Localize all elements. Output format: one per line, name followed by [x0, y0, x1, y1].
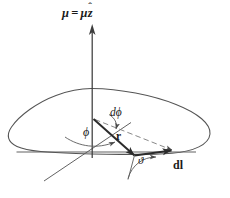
mu-axis-label: μ=μˆz	[62, 7, 93, 20]
loop-curve	[8, 88, 210, 154]
mu-vector-symbol: μ	[62, 6, 69, 20]
mu-scalar-symbol: μ	[80, 6, 87, 20]
equals-sign: =	[71, 6, 78, 20]
diagram-canvas	[0, 0, 230, 198]
phi-label: ϕ	[83, 126, 89, 138]
z-hat-symbol: ˆz	[88, 7, 93, 20]
r-vector-label: r	[116, 131, 121, 143]
physics-diagram-figure: μ=μˆz dϕ ϕ r ϑ dl	[0, 0, 230, 198]
theta-label: ϑ	[138, 155, 143, 166]
dl-vector-label: dl	[173, 159, 183, 171]
d-phi-label: dϕ	[110, 107, 122, 119]
carat-glyph: ˆ	[88, 1, 93, 12]
dashed-ray	[95, 120, 172, 151]
